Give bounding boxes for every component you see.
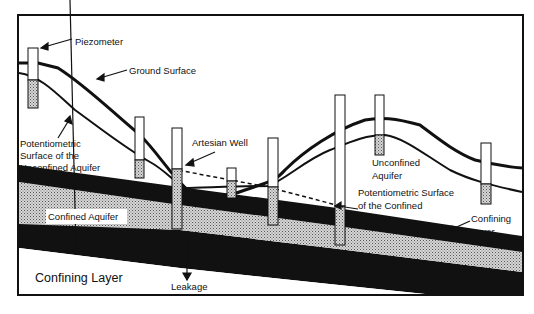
- leakage-label: Leakage: [171, 281, 207, 292]
- ground-surface-label: Ground Surface: [129, 65, 196, 76]
- confined-pot-label-2: of the Confined: [358, 200, 422, 211]
- piezometer-1: [28, 48, 38, 108]
- unconfined-pot-label-2: Surface of the: [20, 150, 79, 161]
- piezometer-3: [227, 168, 236, 198]
- artesian-well: [172, 128, 182, 229]
- piezometer-5: [335, 95, 345, 245]
- artesian-well-label: Artesian Well: [192, 137, 248, 148]
- confined-pot-label-1: Potentiometric Surface: [358, 187, 454, 198]
- piezometer-6: [375, 95, 384, 155]
- confined-pot-label-3: Aquifer: [358, 213, 388, 224]
- piezometer-7: [481, 143, 491, 204]
- confined-aquifer-label: Confined Aquifer: [48, 211, 118, 222]
- unconfined-aquifer-label-2: Aquifer: [372, 170, 402, 181]
- piezometer-4: [268, 138, 278, 225]
- confining-layer-right-label-2: Layer: [471, 226, 495, 237]
- unconfined-pot-label-3: Unconfined Aquifer: [20, 162, 100, 173]
- piezometer-2: [135, 117, 144, 178]
- confining-layer-right-label-1: Confining: [471, 213, 511, 224]
- aquifer-cross-section-diagram: Piezometer Ground Surface Potentiometric…: [0, 0, 534, 314]
- confining-layer-left-label: Confining Layer: [35, 271, 123, 285]
- unconfined-aquifer-label-1: Unconfined: [372, 157, 420, 168]
- unconfined-pot-label-1: Potentiometric: [20, 138, 81, 149]
- piezometer-label: Piezometer: [75, 36, 123, 47]
